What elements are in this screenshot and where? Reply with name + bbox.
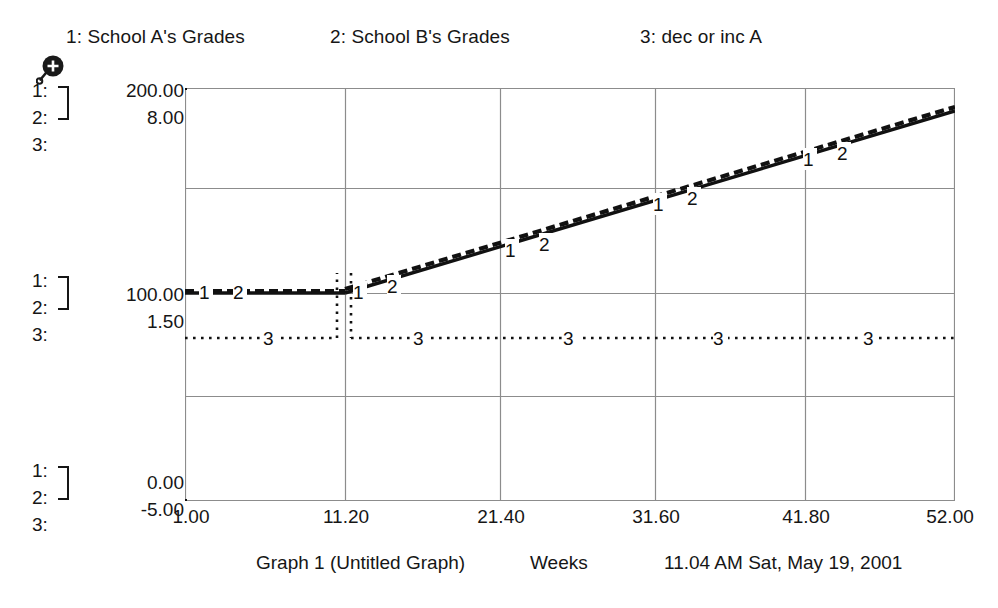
scale-index-3: 3: <box>32 134 48 156</box>
x-tick-label-5[interactable]: 52.00 <box>926 506 974 528</box>
legend-bar: 1: School A's Grades 2: School B's Grade… <box>0 26 998 66</box>
legend-entry-series-3[interactable]: 3: dec or inc A <box>640 26 762 48</box>
series-2-dashed-line <box>185 107 955 291</box>
scale-value-axis2-mid[interactable]: 1.50 <box>147 311 184 333</box>
svg-text:1: 1 <box>803 149 814 170</box>
svg-text:3: 3 <box>863 328 874 349</box>
svg-text:1: 1 <box>653 194 664 215</box>
x-tick-label-2[interactable]: 21.40 <box>477 506 525 528</box>
scale-labels-mid: 1: 2: 3: 100.00 1.50 <box>24 270 184 354</box>
scale-value-axis1-top[interactable]: 200.00 <box>126 80 184 102</box>
status-bar: Graph 1 (Untitled Graph) Weeks 11.04 AM … <box>0 544 998 592</box>
scale-value-axis1-bottom[interactable]: 0.00 <box>147 472 184 494</box>
x-tick-label-4[interactable]: 41.80 <box>782 506 830 528</box>
scale-index-3: 3: <box>32 324 48 346</box>
svg-text:1: 1 <box>505 240 516 261</box>
scale-index-1: 1: <box>32 460 48 482</box>
scale-value-axis1-mid[interactable]: 100.00 <box>126 284 184 306</box>
series-1-solid-line <box>185 111 955 293</box>
scale-index-1: 1: <box>32 80 48 102</box>
svg-text:3: 3 <box>563 328 574 349</box>
svg-text:2: 2 <box>387 276 398 297</box>
svg-text:2: 2 <box>233 282 244 303</box>
svg-text:1: 1 <box>353 282 364 303</box>
legend-entry-series-1[interactable]: 1: School A's Grades <box>66 26 245 48</box>
scale-index-1: 1: <box>32 270 48 292</box>
svg-text:2: 2 <box>539 234 550 255</box>
svg-text:3: 3 <box>413 328 424 349</box>
svg-text:3: 3 <box>263 328 274 349</box>
series-2-point-labels: 2 2 2 2 2 <box>233 142 851 303</box>
timestamp-label: 11.04 AM Sat, May 19, 2001 <box>664 552 902 574</box>
x-tick-label-1[interactable]: 11.20 <box>323 506 369 528</box>
series-1-point-labels: 1 1 1 1 1 <box>199 148 817 303</box>
svg-text:2: 2 <box>687 188 698 209</box>
chart-plot-area[interactable]: 1 1 1 1 1 2 2 2 2 2 3 3 <box>185 88 955 501</box>
legend-entry-series-2[interactable]: 2: School B's Grades <box>330 26 510 48</box>
scale-bracket-bottom <box>58 466 69 500</box>
x-axis-name-label[interactable]: Weeks <box>530 552 588 574</box>
x-tick-label-0[interactable]: 1.00 <box>173 506 210 528</box>
scale-index-2: 2: <box>32 297 48 319</box>
series-3-point-labels: 3 3 3 3 3 <box>263 326 878 349</box>
graph-title-label[interactable]: Graph 1 (Untitled Graph) <box>256 552 465 574</box>
scale-index-2: 2: <box>32 107 48 129</box>
scale-labels-top: 1: 2: 3: 200.00 8.00 <box>24 80 184 164</box>
scale-bracket-mid <box>58 276 69 310</box>
scale-bracket-top <box>58 86 69 120</box>
svg-text:1: 1 <box>199 282 210 303</box>
x-axis-tick-labels: 1.00 11.20 21.40 31.60 41.80 52.00 <box>0 506 998 536</box>
x-tick-label-3[interactable]: 31.60 <box>632 506 680 528</box>
svg-text:3: 3 <box>713 328 724 349</box>
svg-text:2: 2 <box>837 143 848 164</box>
scale-value-axis2-top[interactable]: 8.00 <box>147 107 184 129</box>
